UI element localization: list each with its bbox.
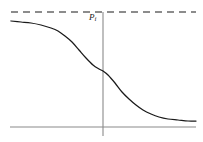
chart-background bbox=[0, 0, 203, 142]
asymptote-label-main: P bbox=[89, 12, 95, 22]
plot-canvas bbox=[0, 0, 203, 142]
chart-figure: Pi bbox=[0, 0, 203, 142]
asymptote-value-label: Pi bbox=[89, 13, 96, 22]
asymptote-label-subscript: i bbox=[95, 15, 97, 23]
